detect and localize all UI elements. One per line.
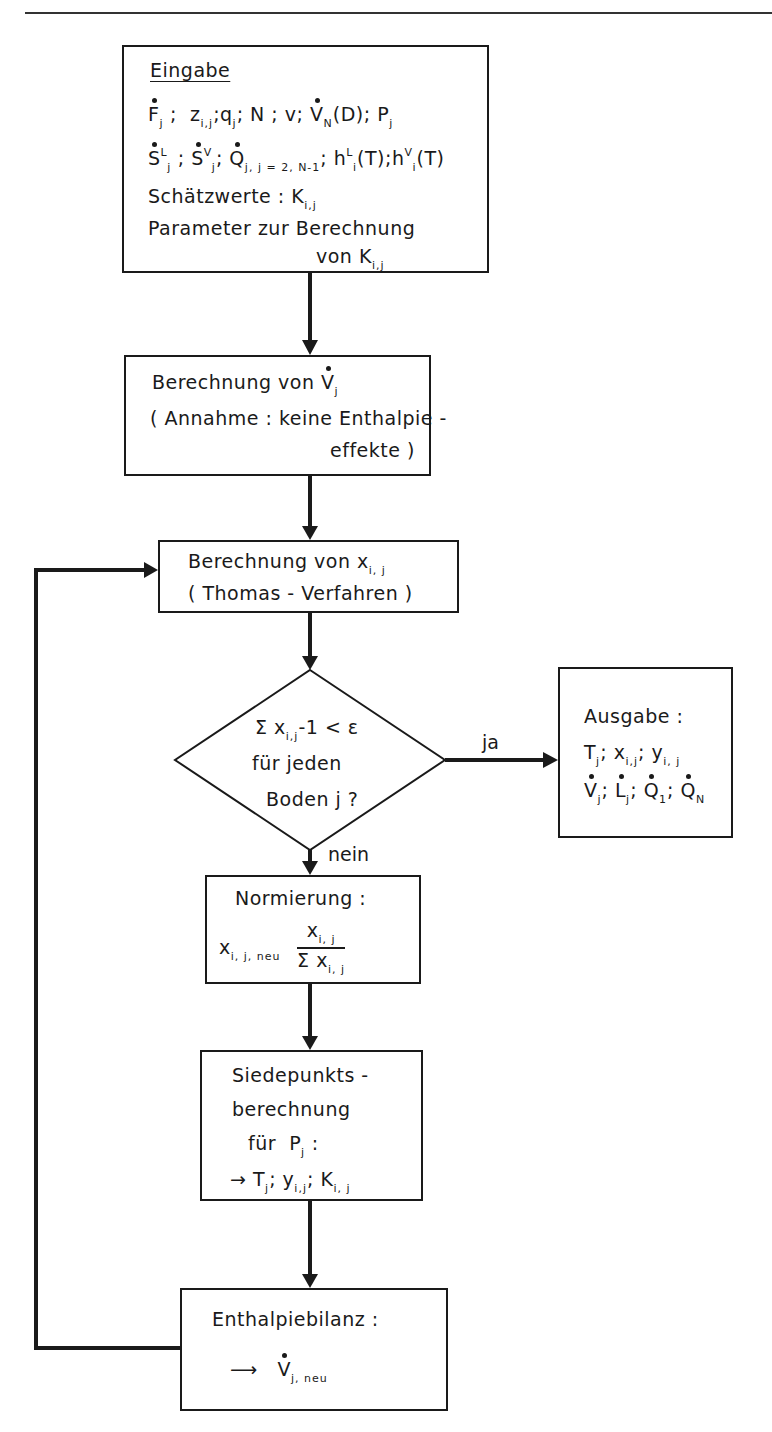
normalize-box: Normierung : xi, j, neu xi, j Σ xi, j: [205, 875, 421, 984]
decision-line-1: Σ xi,j-1 < ε: [255, 718, 359, 742]
bubble-line-2: berechnung: [232, 1100, 351, 1119]
input-box: Eingabe Fj ; zi,j;qj; N ; v; VN(D); Pj S…: [122, 45, 489, 273]
input-title: Eingabe: [150, 61, 230, 80]
decision-line-3: Boden j ?: [266, 790, 358, 809]
input-line-5: von Ki,j: [316, 247, 385, 271]
input-line-3: Schätzwerte : Ki,j: [148, 187, 317, 211]
normalize-title: Normierung :: [235, 889, 366, 908]
input-line-2: SLj ; SVj; Qj, j = 2, N-1; hLi(T);hVi(T): [148, 147, 444, 173]
output-line-2: Vj; Lj; Q1; QN: [584, 781, 705, 805]
vapor-flow-box: Berechnung von Vj ( Annahme : keine Enth…: [124, 355, 431, 476]
right-arrow-icon: ⟶: [230, 1358, 258, 1380]
decision-line-2: für jeden: [252, 754, 342, 773]
normalize-formula: xi, j, neu xi, j Σ xi, j: [219, 921, 345, 975]
yes-label: ja: [482, 731, 499, 753]
input-line-4: Parameter zur Berechnung: [148, 219, 415, 238]
vapor-line-2: ( Annahme : keine Enthalpie -: [150, 409, 447, 428]
bubble-line-4: → Tj; yi,j; Ki, j: [230, 1170, 350, 1194]
enthalpy-title: Enthalpiebilanz :: [212, 1310, 379, 1329]
thomas-line-2: ( Thomas - Verfahren ): [188, 584, 413, 603]
no-label: nein: [328, 843, 369, 865]
thomas-box: Berechnung von xi, j ( Thomas - Verfahre…: [158, 540, 459, 613]
bubble-line-3: für Pj :: [248, 1134, 319, 1158]
enthalpy-balance-box: Enthalpiebilanz : ⟶ Vj, neu: [180, 1288, 448, 1411]
output-line-1: Tj; xi,j; yi, j: [584, 743, 680, 767]
output-box: Ausgabe : Tj; xi,j; yi, j Vj; Lj; Q1; QN: [558, 667, 733, 838]
thomas-line-1: Berechnung von xi, j: [188, 552, 386, 576]
bubble-line-1: Siedepunkts -: [232, 1066, 369, 1085]
loop-back-connector: [36, 570, 180, 1348]
output-title: Ausgabe :: [584, 707, 683, 726]
input-line-1: Fj ; zi,j;qj; N ; v; VN(D); Pj: [148, 105, 393, 129]
bubble-point-box: Siedepunkts - berechnung für Pj : → Tj; …: [200, 1050, 423, 1201]
enthalpy-result: ⟶ Vj, neu: [230, 1360, 328, 1384]
vapor-line-3: effekte ): [330, 441, 415, 460]
vapor-line-1: Berechnung von Vj: [152, 373, 339, 397]
